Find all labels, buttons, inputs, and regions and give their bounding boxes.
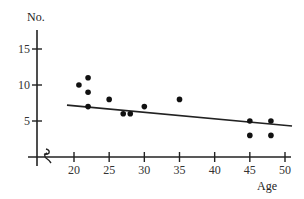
data-point [142,104,148,110]
data-points [76,75,274,138]
data-point [177,97,183,103]
data-point [127,111,133,117]
x-axis-label: Age [257,179,277,193]
y-ticks: 51015 [18,42,42,128]
data-point [120,111,126,117]
data-point [85,89,91,95]
x-tick-label: 25 [103,163,115,177]
x-tick-label: 30 [138,163,150,177]
trend-line [67,105,292,126]
y-tick-label: 10 [18,78,30,92]
scatter-chart: No. Age 51015 20253035404550 [0,0,304,199]
x-tick-label: 50 [279,163,291,177]
x-tick-label: 20 [68,163,80,177]
data-point [268,133,274,139]
x-tick-label: 35 [174,163,186,177]
x-tick-label: 40 [209,163,221,177]
data-point [106,97,112,103]
y-axis-label: No. [27,10,45,24]
data-point [85,75,91,81]
data-point [247,118,253,124]
x-tick-label: 45 [244,163,256,177]
x-ticks: 20253035404550 [68,152,291,177]
data-point [247,133,253,139]
data-point [268,118,274,124]
y-tick-label: 15 [18,42,30,56]
y-tick-label: 5 [24,114,30,128]
data-point [76,82,82,88]
data-point [85,104,91,110]
axis-break-icon [44,149,51,163]
